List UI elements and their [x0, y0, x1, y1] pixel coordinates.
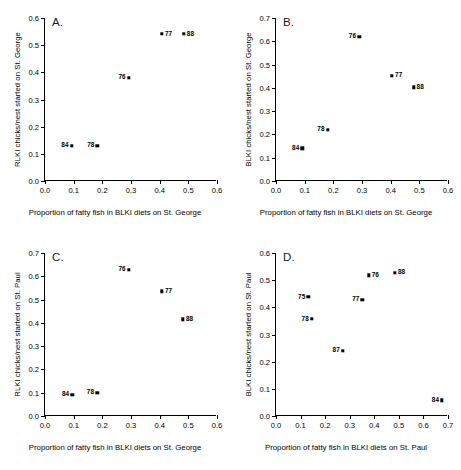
y-tick-label-b-0: 0.0	[259, 177, 270, 186]
y-tick-label-a-0: 0.0	[28, 177, 39, 186]
data-point-label-c-78: 78	[87, 388, 97, 395]
x-tick-b-4	[391, 180, 392, 184]
y-tick-label-b-3: 0.3	[259, 107, 270, 116]
x-tick-a-3	[131, 180, 132, 184]
plot-area-d: 0.00.10.20.30.40.50.60.00.10.20.30.40.50…	[275, 253, 447, 416]
x-tick-c-2	[102, 415, 103, 419]
x-axis-title-b: Proportion of fatty fish in BLKI diets o…	[231, 208, 461, 217]
x-tick-label-c-5: 0.5	[183, 421, 194, 430]
y-tick-d-2	[272, 362, 276, 363]
data-point-label-b-78: 78	[317, 125, 327, 132]
x-tick-label-c-4: 0.4	[154, 421, 165, 430]
data-point-label-d-75: 75	[298, 292, 308, 299]
y-tick-b-3	[272, 111, 276, 112]
x-tick-c-1	[74, 415, 75, 419]
y-tick-label-d-6: 0.6	[259, 249, 270, 258]
x-tick-c-3	[131, 415, 132, 419]
x-tick-d-2	[325, 415, 326, 419]
data-point-label-a-88: 88	[184, 29, 194, 36]
data-point-label-c-88: 88	[183, 314, 193, 321]
x-tick-a-1	[74, 180, 75, 184]
x-tick-label-a-3: 0.3	[126, 186, 137, 195]
x-axis-title-c: Proportion of fatty fish in BLKI diets o…	[0, 443, 230, 452]
x-tick-label-a-2: 0.2	[97, 186, 108, 195]
x-tick-label-b-4: 0.4	[385, 186, 396, 195]
x-tick-b-0	[276, 180, 277, 184]
data-point-label-c-84: 84	[62, 390, 72, 397]
data-point-label-d-77: 77	[352, 295, 362, 302]
x-tick-c-0	[45, 415, 46, 419]
x-tick-label-c-3: 0.3	[126, 421, 137, 430]
data-point-label-d-78: 78	[302, 314, 312, 321]
data-point-label-b-76: 76	[349, 32, 359, 39]
x-tick-d-5	[399, 415, 400, 419]
plot-area-a: 0.00.10.20.30.40.50.60.00.10.20.30.40.50…	[44, 18, 216, 181]
y-tick-label-a-5: 0.5	[28, 41, 39, 50]
y-tick-c-5	[41, 300, 45, 301]
x-tick-label-b-0: 0.0	[271, 186, 282, 195]
x-axis-title-d: Proportion of fatty fish in BLKI diets o…	[231, 443, 461, 452]
x-tick-label-c-6: 0.6	[212, 421, 223, 430]
x-tick-label-a-4: 0.4	[154, 186, 165, 195]
y-tick-label-c-7: 0.7	[28, 249, 39, 258]
y-tick-label-b-7: 0.7	[259, 14, 270, 23]
y-tick-label-c-4: 0.4	[28, 318, 39, 327]
x-tick-label-b-6: 0.6	[443, 186, 454, 195]
y-tick-label-c-0: 0.0	[28, 412, 39, 421]
x-tick-label-d-0: 0.0	[271, 421, 282, 430]
x-tick-a-6	[217, 180, 218, 184]
y-tick-b-1	[272, 158, 276, 159]
y-tick-label-c-3: 0.3	[28, 342, 39, 351]
x-tick-d-4	[374, 415, 375, 419]
y-tick-a-1	[41, 154, 45, 155]
x-tick-a-5	[188, 180, 189, 184]
x-tick-d-1	[301, 415, 302, 419]
x-tick-d-7	[448, 415, 449, 419]
data-point-label-c-76: 76	[118, 265, 128, 272]
y-tick-a-2	[41, 127, 45, 128]
plot-area-c: 0.00.10.20.30.40.50.60.70.00.10.20.30.40…	[44, 253, 216, 416]
y-tick-b-2	[272, 134, 276, 135]
y-tick-b-7	[272, 18, 276, 19]
x-tick-label-d-4: 0.4	[369, 421, 380, 430]
chart-panel-c: C.0.00.10.20.30.40.50.60.70.00.10.20.30.…	[0, 235, 230, 470]
x-tick-d-0	[276, 415, 277, 419]
y-tick-label-b-6: 0.6	[259, 37, 270, 46]
y-tick-a-3	[41, 100, 45, 101]
x-tick-label-d-1: 0.1	[295, 421, 306, 430]
x-tick-b-6	[448, 180, 449, 184]
x-tick-d-6	[423, 415, 424, 419]
y-tick-label-c-6: 0.6	[28, 272, 39, 281]
y-tick-d-5	[272, 280, 276, 281]
y-tick-c-7	[41, 253, 45, 254]
data-point-label-d-76: 76	[369, 270, 379, 277]
y-tick-label-d-3: 0.3	[259, 330, 270, 339]
x-tick-d-3	[350, 415, 351, 419]
x-tick-label-c-0: 0.0	[40, 421, 51, 430]
data-point-label-d-88: 88	[395, 268, 405, 275]
data-point-label-a-76: 76	[118, 73, 128, 80]
y-tick-label-b-5: 0.5	[259, 60, 270, 69]
y-tick-c-3	[41, 346, 45, 347]
y-axis-title-d: BLKI chicks/nest started on St. Paul	[242, 253, 256, 416]
y-tick-c-1	[41, 393, 45, 394]
plot-area-b: 0.00.10.20.30.40.50.60.70.00.10.20.30.40…	[275, 18, 447, 181]
y-tick-label-a-3: 0.3	[28, 95, 39, 104]
y-tick-label-c-1: 0.1	[28, 388, 39, 397]
data-point-label-a-78: 78	[87, 141, 97, 148]
y-tick-label-a-2: 0.2	[28, 122, 39, 131]
chart-panel-b: B.0.00.10.20.30.40.50.60.70.00.10.20.30.…	[231, 0, 461, 235]
y-tick-b-4	[272, 88, 276, 89]
y-tick-label-d-5: 0.5	[259, 276, 270, 285]
y-axis-title-c: RLKI chicks/nest started on St. Paul	[11, 253, 25, 416]
y-tick-b-5	[272, 65, 276, 66]
x-tick-label-c-1: 0.1	[68, 421, 79, 430]
data-point-label-d-84: 84	[432, 395, 442, 402]
y-tick-label-c-2: 0.2	[28, 365, 39, 374]
data-point-label-c-77: 77	[162, 286, 172, 293]
x-tick-a-0	[45, 180, 46, 184]
x-tick-label-a-6: 0.6	[212, 186, 223, 195]
y-tick-label-b-1: 0.1	[259, 153, 270, 162]
y-tick-c-4	[41, 323, 45, 324]
y-tick-label-a-1: 0.1	[28, 149, 39, 158]
